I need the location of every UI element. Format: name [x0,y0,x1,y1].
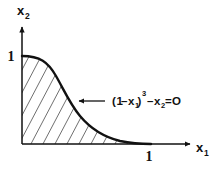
equation-variable-x2: x [154,95,161,107]
x-axis-label-base: x [196,140,204,155]
hatched-feasible-region [0,0,216,171]
y-axis-label: x 2 [17,3,30,21]
figure-container: 1 1 x 2 x 1 ( 1 – x 1 ) 3 – x 2 = O [0,0,216,171]
equation-exponent-3: 3 [142,89,146,98]
y-axis-tick-label-1: 1 [8,49,15,64]
curve-equation-annotation: ( 1 – x 1 ) 3 – x 2 = O [112,89,181,110]
equation-equals-sign: = [165,95,172,107]
equation-variable-x1: x [128,95,135,107]
equation-minus-2: – [147,95,154,107]
y-axis-label-base: x [17,3,25,18]
x-axis-tick-label-1: 1 [146,149,153,164]
equation-zero: O [172,95,181,107]
equation-open-paren: ( [112,95,116,107]
x-axis-label-subscript: 1 [204,148,209,158]
x-axis-label: x 1 [196,140,209,158]
y-axis-label-subscript: 2 [25,11,30,21]
equation-close-paren: ) [138,95,142,107]
plot-canvas: 1 1 x 2 x 1 ( 1 – x 1 ) 3 – x 2 = O [0,0,216,171]
equation-minus: – [121,95,128,107]
